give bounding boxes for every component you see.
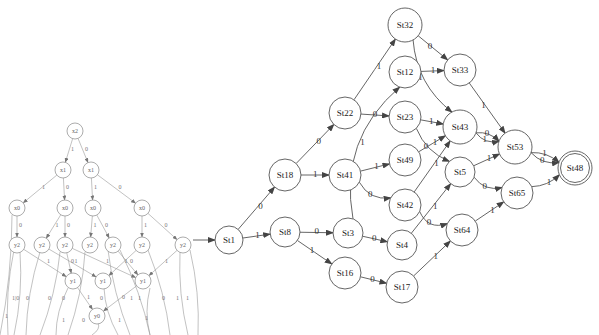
bdd-edge	[46, 215, 61, 238]
state-label: St8	[279, 227, 292, 237]
bdd-node[interactable]: x1	[83, 162, 99, 178]
state-label: St49	[397, 155, 414, 165]
bdd-node-label: y1	[140, 278, 146, 284]
transition-edge	[296, 124, 334, 163]
state-node[interactable]: St65	[501, 177, 533, 209]
bdd-edge-label: 1	[62, 317, 65, 323]
state-label: St12	[397, 67, 414, 77]
bdd-node[interactable]: y2	[9, 237, 25, 253]
state-node[interactable]: St5	[445, 157, 475, 187]
bdd-edge-label: 0	[100, 295, 103, 301]
bdd-node[interactable]: x1	[55, 162, 71, 178]
state-node[interactable]: St16	[329, 257, 361, 289]
transition-label: 1	[313, 169, 318, 179]
bdd-node-label: y0	[94, 313, 100, 319]
transition-label: 1	[490, 205, 495, 215]
bdd-node-label: y1	[100, 278, 106, 284]
bdd-node[interactable]: x2	[67, 123, 83, 139]
bdd-node[interactable]: y0	[89, 308, 105, 324]
state-node[interactable]: St1	[215, 226, 243, 254]
bdd-edge-label: 1	[5, 313, 8, 319]
bdd-node-label: x1	[60, 167, 66, 173]
bdd-node[interactable]: x0	[134, 200, 150, 216]
state-label: St17	[394, 282, 411, 292]
bdd-edge	[23, 175, 57, 203]
transition-edge	[238, 187, 274, 229]
transition-label: 0	[314, 226, 319, 236]
transition-label: 1	[360, 137, 365, 147]
bdd-edge-label: 1	[75, 258, 78, 264]
state-node[interactable]: St23	[389, 101, 421, 133]
bdd-node-label: y2	[139, 242, 145, 248]
state-label: St3	[342, 228, 355, 238]
bdd-node[interactable]: y2	[105, 237, 121, 253]
bdd-node-label: y2	[110, 242, 116, 248]
bdd-edge	[63, 178, 64, 200]
state-node[interactable]: St17	[386, 271, 418, 303]
state-node[interactable]: St3	[333, 218, 363, 248]
bdd-edge-label: 1	[165, 258, 168, 264]
bdd-node-label: x0	[14, 205, 20, 211]
bdd-edge-label: 0	[19, 222, 22, 228]
bdd-node[interactable]: y1	[65, 273, 81, 289]
bdd-node[interactable]: y1	[135, 273, 151, 289]
bdd-edge-label: 1|0	[12, 295, 19, 301]
state-node[interactable]: St33	[444, 54, 476, 86]
state-node[interactable]: St41	[329, 159, 361, 191]
state-node[interactable]: St12	[389, 56, 421, 88]
state-label: St43	[452, 122, 469, 132]
state-node[interactable]: St49	[389, 144, 421, 176]
bdd-edge	[148, 213, 177, 239]
bdd-edge-label: 0	[119, 184, 122, 190]
state-node[interactable]: St64	[446, 214, 478, 246]
bdd-node[interactable]: y2	[175, 237, 191, 253]
state-node[interactable]: St4	[387, 230, 417, 260]
bdd-node[interactable]: y1	[95, 273, 111, 289]
bdd-edge-label: 0	[71, 258, 74, 264]
bdd-node-label: x1	[88, 167, 94, 173]
bdd-node[interactable]: x0	[9, 200, 25, 216]
transition-label: 1	[433, 201, 438, 211]
transition-label: 0	[317, 136, 322, 146]
bdd-node[interactable]: y2	[134, 237, 150, 253]
state-label: St41	[337, 170, 354, 180]
state-label: St32	[397, 20, 414, 30]
bdd-edge-label: 1	[94, 184, 97, 190]
bdd-node[interactable]: y2	[34, 237, 50, 253]
state-label: St42	[397, 200, 414, 210]
state-label: St1	[223, 235, 235, 245]
bdd-node[interactable]: y2	[82, 237, 98, 253]
state-node[interactable]: St8	[270, 217, 300, 247]
state-label: St23	[397, 112, 414, 122]
bdd-edge	[92, 323, 99, 335]
bdd-edge-label: 0	[165, 222, 168, 228]
state-node[interactable]: St53	[498, 130, 532, 164]
bdd-edge	[118, 251, 138, 275]
transition-label: 1	[482, 134, 487, 144]
transition-label: 0	[368, 189, 373, 199]
state-node[interactable]: St48	[558, 151, 592, 185]
bdd-node[interactable]: x0	[85, 200, 101, 216]
state-node[interactable]: St42	[389, 189, 421, 221]
state-node[interactable]: St43	[443, 110, 477, 144]
bdd-edge	[104, 288, 118, 335]
bdd-edge-label: 0	[130, 258, 133, 264]
bdd-edge	[78, 288, 93, 310]
transition-label: 0	[483, 181, 488, 191]
transition-label: 1	[481, 100, 486, 110]
bdd-edge-label: 1	[138, 295, 141, 301]
state-node[interactable]: St18	[269, 159, 301, 191]
bdd-edge-label: 0	[105, 222, 108, 228]
bdd-node-label: y2	[62, 242, 68, 248]
bdd-node[interactable]: y2	[57, 237, 73, 253]
transition-edge	[414, 241, 451, 276]
transition-label: 0	[540, 155, 545, 165]
state-machine-graph: 01010110101000111011011101101101St1St18S…	[193, 8, 592, 303]
bdd-edge-label: 0	[67, 222, 70, 228]
state-node[interactable]: St32	[388, 8, 422, 42]
bdd-edge-label: 1	[125, 258, 128, 264]
bdd-node[interactable]: x0	[57, 200, 73, 216]
state-node[interactable]: St22	[329, 97, 361, 129]
bdd-edge	[190, 250, 198, 335]
bdd-edge-label: 0	[62, 295, 65, 301]
